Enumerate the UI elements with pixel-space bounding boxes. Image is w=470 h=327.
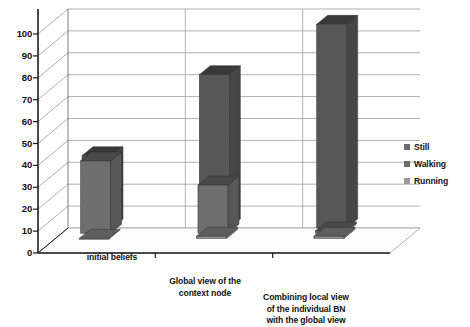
bar-still-cat2[interactable] [317,15,358,228]
legend-item-still[interactable]: Still [404,138,470,155]
legend-swatch-running [404,178,410,184]
depth-connectors [38,9,68,253]
y-axis-tick-70: 70 [2,95,32,105]
legend-item-walking[interactable]: Walking [404,155,470,172]
category-label-2: Combining local viewof the individual BN… [236,292,376,327]
y-axis-tick-40: 40 [2,160,32,170]
legend-label-running: Running [414,176,448,186]
category-label-2-line-2: with the global view [236,315,376,327]
legend-label-still: Still [414,142,429,152]
y-axis-tick-60: 60 [2,117,32,127]
y-axis-tick-10: 10 [2,226,32,236]
legend-label-walking: Walking [414,159,446,169]
category-label-2-line-1: of the individual BN [236,304,376,316]
bar-walking-cat1[interactable] [198,176,239,233]
y-axis-tick-90: 90 [2,51,32,61]
bar-walking-cat0[interactable] [81,152,122,233]
y-axis-tick-100: 100 [2,29,32,39]
y-axis-tick-50: 50 [2,139,32,149]
y-axis-tick-80: 80 [2,73,32,83]
category-label-0-line-0: initial beliefs [52,252,172,264]
legend-swatch-walking [404,161,410,167]
legend-item-running[interactable]: Running [404,172,470,189]
category-label-2-line-0: Combining local view [236,292,376,304]
y-axis-tick-20: 20 [2,204,32,214]
y-axis-tick-30: 30 [2,182,32,192]
category-label-0: initial beliefs [52,252,172,264]
legend-swatch-still [404,144,410,150]
y-axis-tick-0: 0 [2,248,32,258]
chart-container: 1009080706050403020100 initial beliefsGl… [0,0,470,327]
category-label-1-line-0: Global view of the [140,276,270,288]
chart-legend: Still Walking Running [404,138,470,189]
